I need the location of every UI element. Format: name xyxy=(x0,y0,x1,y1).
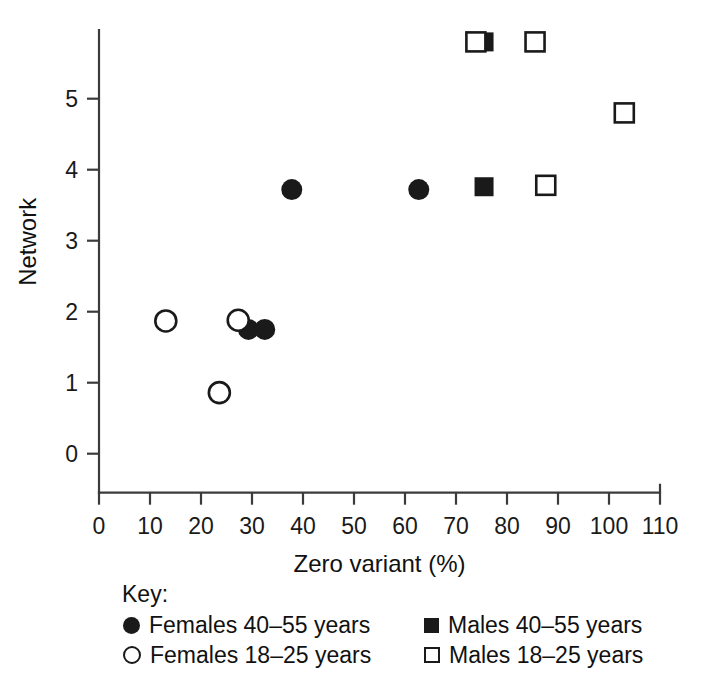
x-tick-label-80: 80 xyxy=(494,513,520,539)
scatter-plot-figure: 0102030405060708090100110012345Zero vari… xyxy=(0,0,717,690)
legend-entry-3: Males 18–25 years xyxy=(422,642,702,669)
x-tick-label-90: 90 xyxy=(545,513,571,539)
legend-entry-1: Males 40–55 years xyxy=(422,612,702,639)
legend-marker-filled-circle-icon xyxy=(123,617,140,634)
legend-marker-open-square-icon xyxy=(424,647,440,663)
y-axis-title: Network xyxy=(14,197,41,286)
data-point-s1-p2[interactable] xyxy=(228,310,249,331)
legend-entry-2: Females 18–25 years xyxy=(122,642,422,669)
y-tick-label-2: 2 xyxy=(65,299,78,325)
x-tick-label-10: 10 xyxy=(137,513,163,539)
data-point-s0-p1[interactable] xyxy=(254,319,275,340)
x-tick-label-0: 0 xyxy=(93,513,106,539)
chart-legend: Key: Females 40–55 yearsMales 40–55 year… xyxy=(122,580,702,670)
legend-entry-0: Females 40–55 years xyxy=(122,612,422,639)
data-point-s1-p0[interactable] xyxy=(155,310,176,331)
data-point-s3-p0[interactable] xyxy=(466,32,485,51)
x-tick-label-50: 50 xyxy=(341,513,367,539)
x-tick-label-100: 100 xyxy=(590,513,628,539)
x-tick-label-20: 20 xyxy=(188,513,214,539)
legend-title: Key: xyxy=(122,580,702,608)
legend-marker-open-circle-icon xyxy=(123,646,141,664)
y-tick-label-1: 1 xyxy=(65,370,78,396)
data-point-s1-p1[interactable] xyxy=(209,382,230,403)
legend-entries: Females 40–55 yearsMales 40–55 yearsFema… xyxy=(122,610,702,670)
legend-label: Females 40–55 years xyxy=(149,612,370,639)
legend-label: Females 18–25 years xyxy=(150,642,371,669)
y-tick-label-5: 5 xyxy=(65,86,78,112)
x-axis-title: Zero variant (%) xyxy=(293,550,465,577)
data-point-s3-p1[interactable] xyxy=(526,32,545,51)
y-tick-label-0: 0 xyxy=(65,441,78,467)
data-point-s0-p3[interactable] xyxy=(408,179,429,200)
legend-label: Males 18–25 years xyxy=(449,642,643,669)
data-point-s2-p0[interactable] xyxy=(475,177,494,196)
data-point-s0-p2[interactable] xyxy=(281,179,302,200)
x-tick-label-110: 110 xyxy=(642,513,679,539)
y-tick-label-3: 3 xyxy=(65,228,78,254)
x-tick-label-70: 70 xyxy=(443,513,469,539)
x-tick-label-40: 40 xyxy=(290,513,316,539)
y-tick-label-4: 4 xyxy=(65,157,78,183)
data-point-s3-p3[interactable] xyxy=(615,103,634,122)
x-tick-label-60: 60 xyxy=(392,513,418,539)
legend-marker-filled-square-icon xyxy=(424,618,439,633)
data-point-s3-p2[interactable] xyxy=(536,176,555,195)
x-tick-label-30: 30 xyxy=(239,513,265,539)
legend-label: Males 40–55 years xyxy=(448,612,642,639)
